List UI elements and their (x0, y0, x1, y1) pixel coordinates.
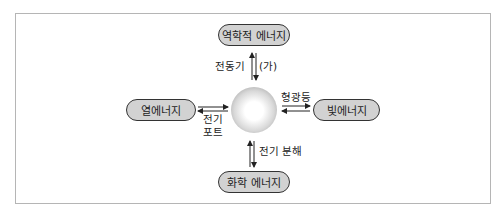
electric-energy-sphere (231, 87, 277, 133)
label-fluorescent-lamp: 형광등 (281, 91, 311, 104)
node-heat-energy: 열에너지 (126, 99, 196, 121)
node-light-energy-label: 빛에너지 (327, 102, 367, 118)
node-chemical-energy: 화학 에너지 (218, 171, 290, 193)
node-mechanical-energy-label: 역학적 에너지 (222, 27, 286, 43)
label-motor: 전동기 (215, 60, 245, 73)
label-electric-line2: 포트 (203, 126, 223, 139)
node-heat-energy-label: 열에너지 (141, 102, 181, 118)
node-mechanical-energy: 역학적 에너지 (218, 24, 290, 46)
label-ga: (가) (259, 60, 277, 73)
label-electric-line1: 전기 (203, 113, 223, 126)
node-chemical-energy-label: 화학 에너지 (227, 174, 281, 190)
label-electrolysis: 전기 분해 (259, 145, 302, 158)
node-light-energy: 빛에너지 (313, 99, 380, 121)
